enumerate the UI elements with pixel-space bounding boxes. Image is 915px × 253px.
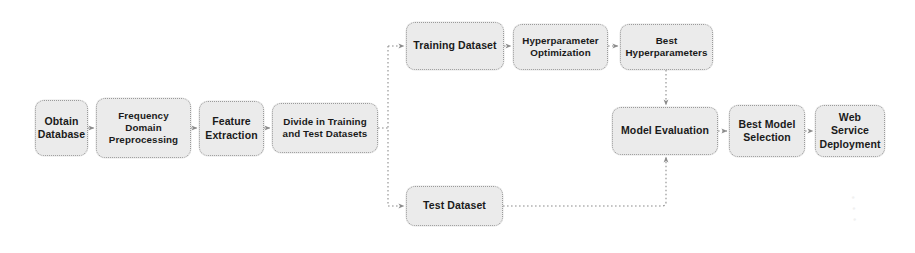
node-divide-in-training-and-test-datasets[interactable]: Divide in Training and Test Datasets	[272, 103, 378, 153]
node-label: Model Evaluation	[621, 124, 709, 137]
edge-test-to-model-eval	[503, 157, 666, 206]
node-label: Obtain Database	[38, 115, 86, 141]
node-test-dataset[interactable]: Test Dataset	[406, 186, 503, 226]
node-training-dataset[interactable]: Training Dataset	[406, 22, 504, 70]
node-best-model-selection[interactable]: Best Model Selection	[729, 105, 805, 157]
node-label: Best Hyperparameters	[625, 35, 707, 59]
node-feature-extraction[interactable]: Feature Extraction	[199, 101, 264, 156]
node-label: Frequency Domain Preprocessing	[109, 110, 178, 147]
flowchart-canvas: Obtain Database Frequency Domain Preproc…	[0, 0, 915, 253]
node-frequency-domain-preprocessing[interactable]: Frequency Domain Preprocessing	[96, 98, 191, 158]
node-model-evaluation[interactable]: Model Evaluation	[612, 107, 718, 155]
node-label: Web Service Deployment	[819, 111, 880, 150]
node-label: Feature Extraction	[205, 115, 257, 141]
node-label: Training Dataset	[413, 39, 496, 52]
node-obtain-database[interactable]: Obtain Database	[35, 100, 88, 156]
node-best-hyperparameters[interactable]: Best Hyperparameters	[620, 24, 713, 70]
node-label: Test Dataset	[423, 199, 486, 212]
node-label: Hyperparameter Optimization	[522, 35, 599, 59]
node-label: Divide in Training and Test Datasets	[283, 116, 368, 140]
node-web-service-deployment[interactable]: Web Service Deployment	[815, 105, 885, 157]
node-label: Best Model Selection	[738, 118, 795, 144]
node-hyperparameter-optimization[interactable]: Hyperparameter Optimization	[513, 24, 608, 70]
scan-smudge-artifact: •••	[851, 192, 858, 225]
